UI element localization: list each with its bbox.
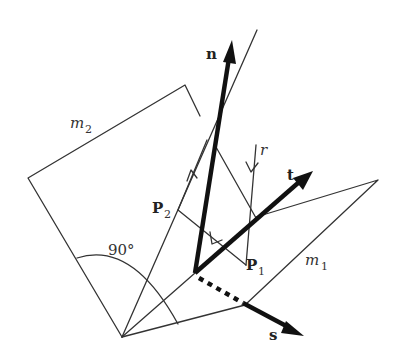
label-t: t — [287, 166, 294, 184]
label-m1: m 1 — [305, 251, 328, 273]
label-r: r — [260, 141, 268, 159]
vector-s — [199, 278, 304, 336]
svg-text:m: m — [70, 114, 84, 132]
svg-text:1: 1 — [258, 265, 265, 278]
label-p2: P 2 — [152, 199, 171, 221]
svg-text:2: 2 — [85, 123, 92, 136]
svg-text:2: 2 — [164, 208, 171, 221]
label-p1: P 1 — [246, 256, 265, 278]
label-n: n — [206, 45, 217, 63]
svg-text:1: 1 — [321, 260, 328, 273]
label-m2: m 2 — [70, 114, 92, 136]
svg-text:P: P — [246, 256, 257, 274]
label-angle: 90° — [108, 241, 135, 259]
svg-text:P: P — [152, 199, 163, 217]
right-angle-arc — [77, 255, 178, 324]
label-s: s — [269, 326, 277, 344]
ray-r — [246, 145, 258, 265]
plane-vector-diagram: n t s r m 2 m 1 P 2 P 1 90° — [0, 0, 404, 357]
svg-text:m: m — [305, 251, 319, 269]
plane-m2 — [28, 85, 256, 337]
